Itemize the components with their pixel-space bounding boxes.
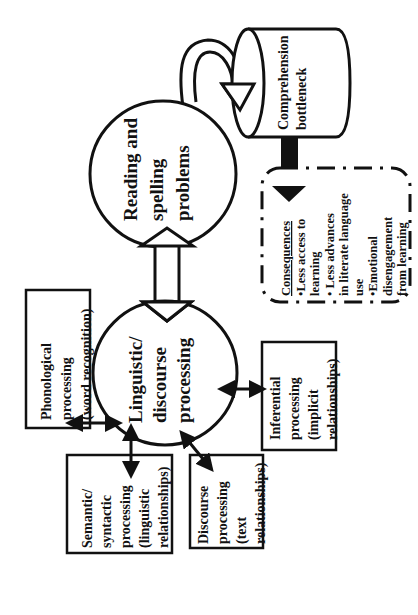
linguistic-label: Linguistic/ discourse processing bbox=[125, 332, 194, 423]
diagram-canvas: Comprehension bottleneck Consequences •L… bbox=[0, 0, 418, 615]
